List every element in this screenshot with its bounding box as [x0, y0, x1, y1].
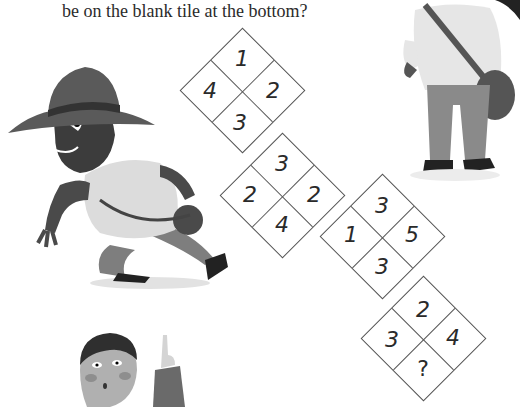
tile-3-bottom: 3	[367, 252, 397, 282]
standing-explorer-illustration	[395, 0, 520, 185]
tile-4-bottom-blank: ?	[408, 354, 438, 384]
tile-3-left: 1	[336, 220, 366, 250]
tile-4-top: 2	[408, 295, 438, 325]
tile-3-top: 3	[367, 191, 397, 221]
puzzle-page: What number should be on the blank tile …	[0, 0, 520, 407]
tile-4-left: 3	[377, 325, 407, 355]
tile-1-right: 2	[258, 76, 288, 106]
tile-2-top: 3	[267, 149, 297, 179]
tile-1-top: 1	[227, 44, 257, 74]
tile-4-right: 4	[438, 323, 468, 353]
question-text: What number should be on the blank tile …	[62, 0, 307, 21]
tile-3-right: 5	[397, 220, 427, 250]
tile-2-right: 2	[299, 180, 329, 210]
tile-2-left: 2	[235, 180, 265, 210]
tile-1-bottom: 3	[225, 108, 255, 138]
man-pointing-up-illustration	[75, 330, 205, 407]
question-line-2: be on the blank tile at the bottom?	[62, 1, 307, 21]
tile-2-bottom: 4	[267, 210, 297, 240]
tile-1-left: 4	[195, 76, 225, 106]
